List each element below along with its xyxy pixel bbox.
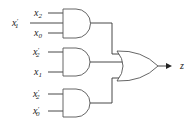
label-g1-x1prime: x′1 (11, 17, 18, 30)
label-g3-x2prime: x′2 (32, 88, 40, 101)
and-gate-1 (63, 9, 91, 38)
wire-g3-to-or (90, 78, 125, 103)
and-gate-2 (63, 48, 90, 76)
label-output-z: z (179, 60, 184, 71)
wire-g1-to-or (91, 23, 126, 54)
label-g1-x0: x0 (33, 27, 42, 40)
arrow-icon (166, 63, 172, 69)
label-g2-x2prime: x′2 (32, 46, 40, 59)
label-g2-x1: x1 (33, 66, 42, 79)
and-gate-3 (63, 89, 90, 117)
logic-circuit-diagram: x2 x′1 x0 x′2 x1 x′2 x′0 z (0, 0, 195, 131)
label-g1-x2: x2 (33, 7, 42, 20)
label-g3-x0prime: x′0 (32, 105, 40, 118)
or-gate (117, 51, 158, 81)
